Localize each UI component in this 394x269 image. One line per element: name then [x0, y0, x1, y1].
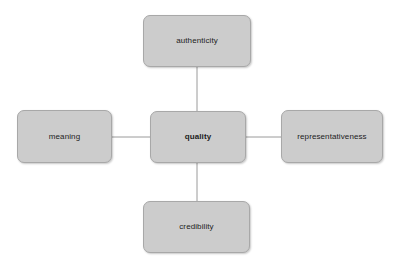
node-credibility-label: credibility [176, 222, 216, 232]
diagram-canvas: authenticity meaning quality representat… [0, 0, 394, 269]
node-authenticity[interactable]: authenticity [143, 15, 251, 67]
node-authenticity-label: authenticity [173, 36, 221, 46]
node-credibility[interactable]: credibility [143, 201, 250, 253]
node-representativeness[interactable]: representativeness [281, 110, 383, 163]
node-meaning-label: meaning [46, 132, 83, 142]
node-representativeness-label: representativeness [294, 132, 369, 142]
node-quality[interactable]: quality [150, 111, 246, 163]
node-meaning[interactable]: meaning [17, 110, 112, 163]
node-quality-label: quality [182, 132, 214, 142]
